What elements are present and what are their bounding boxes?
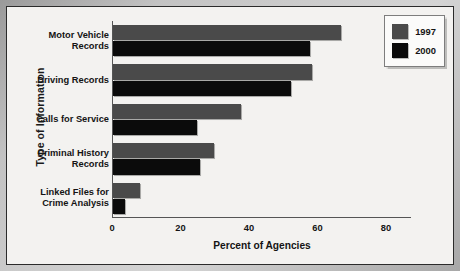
x-tick-0: 0 xyxy=(95,223,129,233)
chart-legend: 1997 2000 xyxy=(384,15,445,67)
category-label-1: Driving Records xyxy=(33,75,109,86)
legend-swatch-1997-icon xyxy=(392,24,408,39)
legend-swatch-2000-icon xyxy=(392,43,408,58)
chart-figure: Type of Information Motor Vehicle Record… xyxy=(0,0,460,271)
x-axis-line xyxy=(112,217,411,218)
category-label-4: Linked Files for Crime Analysis xyxy=(33,187,109,209)
x-tick-60: 60 xyxy=(301,223,335,233)
chart-plate: Type of Information Motor Vehicle Record… xyxy=(6,6,454,265)
category-label-0: Motor Vehicle Records xyxy=(33,30,109,52)
x-tick-40: 40 xyxy=(232,223,266,233)
legend-item-1997: 1997 xyxy=(392,22,436,41)
bar-2000-cat1 xyxy=(113,81,291,96)
bar-2000-cat3 xyxy=(113,159,200,174)
bar-1997-cat2 xyxy=(113,104,241,119)
legend-label-2000: 2000 xyxy=(415,45,436,56)
bar-2000-cat2 xyxy=(113,120,197,135)
bar-1997-cat1 xyxy=(113,64,312,79)
bar-2000-cat0 xyxy=(113,41,310,56)
x-tick-20: 20 xyxy=(164,223,198,233)
x-tick-80: 80 xyxy=(369,223,403,233)
bar-1997-cat0 xyxy=(113,25,341,40)
x-tick-label-list: 020406080 xyxy=(112,223,452,239)
legend-item-2000: 2000 xyxy=(392,41,436,60)
legend-label-1997: 1997 xyxy=(415,26,436,37)
category-label-list: Motor Vehicle RecordsDriving RecordsCall… xyxy=(33,21,109,218)
category-label-3: Criminal History Records xyxy=(33,148,109,170)
bar-1997-cat3 xyxy=(113,143,214,158)
bar-2000-cat4 xyxy=(113,199,125,214)
bar-1997-cat4 xyxy=(113,183,140,198)
category-label-2: Calls for Service xyxy=(33,114,109,125)
x-axis-title: Percent of Agencies xyxy=(112,240,412,251)
